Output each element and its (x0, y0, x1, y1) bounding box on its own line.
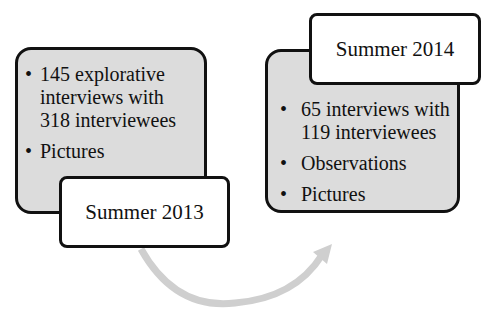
list-item: • Observations (280, 152, 451, 175)
bullet-icon: • (280, 98, 287, 121)
stage-2014-list: • 65 interviews with 119 interviewees • … (280, 98, 451, 214)
list-item: • Pictures (280, 183, 451, 206)
bullet-icon: • (25, 140, 32, 163)
list-item: • 65 interviews with 119 interviewees (280, 98, 451, 144)
list-item: • Pictures (25, 140, 198, 163)
item-text: 65 interviews with 119 interviewees (280, 98, 451, 144)
bullet-icon: • (280, 183, 287, 206)
stage-label-text: Summer 2013 (85, 200, 203, 225)
item-text: Pictures (25, 140, 198, 163)
bullet-icon: • (25, 63, 32, 86)
stage-2014-label: Summer 2014 (309, 13, 481, 85)
list-item: • 145 explorative interviews with 318 in… (25, 63, 198, 132)
stage-label-text: Summer 2014 (336, 37, 454, 62)
item-text: Pictures (280, 183, 451, 206)
bullet-icon: • (280, 152, 287, 175)
stage-2013-label: Summer 2013 (59, 176, 230, 248)
item-text: Observations (280, 152, 451, 175)
item-text: 145 explorative interviews with 318 inte… (25, 63, 198, 132)
stage-2013-list: • 145 explorative interviews with 318 in… (25, 63, 198, 171)
